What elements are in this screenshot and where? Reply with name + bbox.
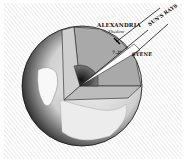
eratosthenes-diagram <box>0 0 185 163</box>
label-shadow: Shadow <box>108 30 124 34</box>
label-alexandria: ALEXANDRIA <box>97 23 141 29</box>
label-syene: SYENE <box>132 52 152 57</box>
label-angle: 7.2° <box>112 51 122 56</box>
